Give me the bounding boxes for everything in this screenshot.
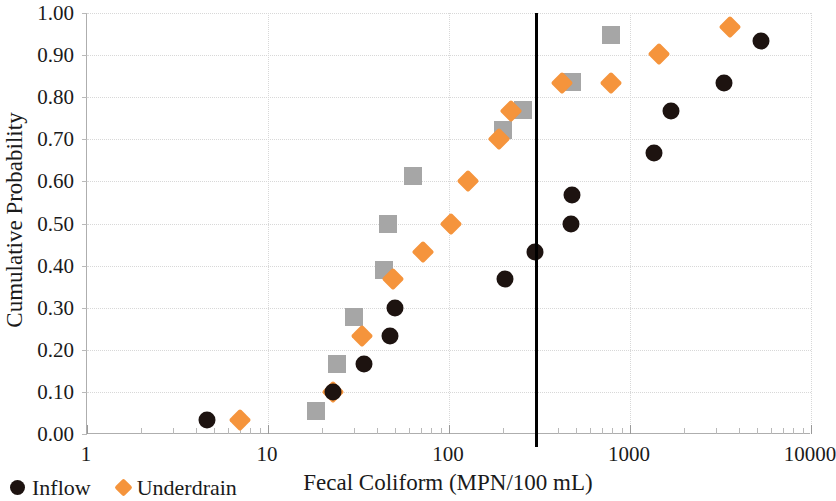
data-point-inflow — [497, 271, 514, 288]
data-point-series-3 — [602, 26, 620, 44]
y-axis-tick-label: 0.40 — [0, 255, 74, 276]
y-axis-tick — [82, 55, 87, 56]
y-axis-tick-label: 0.30 — [0, 297, 74, 318]
x-axis-tick — [811, 425, 812, 434]
x-axis-tick — [757, 428, 758, 434]
y-axis-tick-label: 0.50 — [0, 213, 74, 234]
y-axis-tick — [82, 434, 87, 435]
data-point-inflow — [645, 145, 662, 162]
x-axis-tick — [141, 428, 142, 434]
y-axis-tick-label: 0.80 — [0, 87, 74, 108]
y-axis-tick — [82, 139, 87, 140]
x-axis-tick — [803, 428, 804, 434]
x-axis-tick — [576, 428, 577, 434]
data-point-underdrain — [229, 409, 252, 432]
data-point-inflow — [381, 327, 398, 344]
chart-legend: InflowUnderdrain — [10, 474, 237, 501]
x-axis-tick — [260, 428, 261, 434]
y-axis-tick — [82, 13, 87, 14]
data-point-series-3 — [404, 167, 422, 185]
x-axis-tick — [684, 428, 685, 434]
legend-label: Underdrain — [137, 477, 237, 499]
data-point-series-3 — [345, 308, 363, 326]
y-axis-tick-label: 1.00 — [0, 3, 74, 24]
x-axis-tick — [771, 428, 772, 434]
x-axis-tick — [441, 428, 442, 434]
data-point-inflow — [715, 75, 732, 92]
x-axis-tick-label: 100 — [432, 444, 464, 465]
gridline-vertical — [630, 13, 631, 434]
x-axis-tick — [503, 428, 504, 434]
x-axis-tick — [228, 428, 229, 434]
legend-item-underdrain[interactable]: Underdrain — [117, 477, 237, 499]
data-point-inflow — [564, 187, 581, 204]
data-point-inflow — [562, 215, 579, 232]
x-axis-tick — [431, 428, 432, 434]
diamond-marker-icon — [114, 478, 132, 496]
legend-item-inflow[interactable]: Inflow — [10, 477, 91, 499]
x-axis-tick — [214, 428, 215, 434]
y-axis-tick — [82, 224, 87, 225]
x-axis-tick — [196, 428, 197, 434]
data-point-underdrain — [718, 16, 741, 39]
x-axis-tick — [783, 428, 784, 434]
data-point-underdrain — [412, 240, 435, 263]
data-point-inflow — [198, 412, 215, 429]
data-point-underdrain — [440, 212, 463, 235]
x-axis-tick — [739, 428, 740, 434]
x-axis-tick — [409, 428, 410, 434]
x-axis-tick — [590, 428, 591, 434]
y-axis-tick — [82, 266, 87, 267]
data-point-inflow — [662, 103, 679, 120]
data-point-series-3 — [328, 355, 346, 373]
y-axis-tick-label: 0.70 — [0, 129, 74, 150]
y-axis-tick — [82, 181, 87, 182]
data-point-underdrain — [351, 325, 374, 348]
x-axis-tick — [173, 428, 174, 434]
data-point-underdrain — [648, 43, 671, 66]
x-axis-tick — [793, 428, 794, 434]
y-axis-tick — [82, 97, 87, 98]
x-axis-tick — [622, 428, 623, 434]
x-axis-tick — [558, 428, 559, 434]
x-axis-tick — [421, 428, 422, 434]
gridline-vertical — [811, 13, 812, 434]
data-point-inflow — [386, 299, 403, 316]
plot-area — [86, 13, 810, 434]
y-axis-tick — [82, 392, 87, 393]
y-axis-tick-label: 0.20 — [0, 339, 74, 360]
data-point-inflow — [356, 355, 373, 372]
legend-label: Inflow — [32, 477, 91, 499]
x-axis-tick-label: 1000 — [608, 444, 650, 465]
x-axis-tick — [602, 428, 603, 434]
y-axis-tick-label: 0.60 — [0, 171, 74, 192]
data-point-inflow — [325, 383, 342, 400]
y-axis-tick — [82, 350, 87, 351]
y-axis-tick-label: 0.00 — [0, 424, 74, 445]
x-axis-tick-label: 1 — [81, 444, 92, 465]
y-axis-tick — [82, 308, 87, 309]
y-axis-tick-label: 0.90 — [0, 45, 74, 66]
x-axis-tick — [322, 428, 323, 434]
x-axis-tick — [377, 428, 378, 434]
data-point-underdrain — [456, 170, 479, 193]
y-axis-tick-label: 0.10 — [0, 381, 74, 402]
x-axis-tick — [87, 425, 88, 434]
data-point-inflow — [753, 33, 770, 50]
x-axis-tick — [716, 428, 717, 434]
circle-marker-icon — [10, 480, 25, 495]
x-axis-tick — [630, 425, 631, 434]
x-axis-tick-label: 10 — [257, 444, 278, 465]
data-point-series-3 — [307, 402, 325, 420]
x-axis-tick — [449, 425, 450, 434]
data-point-series-3 — [379, 215, 397, 233]
x-axis-tick — [250, 428, 251, 434]
gridline-vertical — [268, 13, 269, 434]
data-point-underdrain — [600, 72, 623, 95]
x-axis-tick — [268, 425, 269, 434]
x-axis-tick — [354, 428, 355, 434]
x-axis-tick — [612, 428, 613, 434]
water-quality-standard-line — [535, 13, 538, 447]
x-axis-tick — [395, 428, 396, 434]
